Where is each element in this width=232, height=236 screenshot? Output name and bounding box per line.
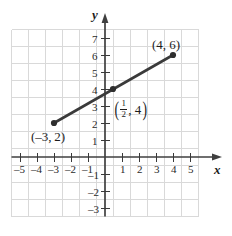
- x-tick-label-neg5: –5: [14, 164, 25, 175]
- y-tick-label-7: 7: [92, 34, 98, 45]
- x-tick-label-4: 4: [171, 164, 177, 175]
- point-marker-left: [51, 120, 57, 126]
- x-tick-label-neg4: –4: [31, 164, 42, 175]
- midpoint-open-paren: (: [114, 98, 119, 120]
- x-tick-label-2: 2: [137, 164, 143, 175]
- point-label-upper: (4, 6): [152, 38, 180, 51]
- coordinate-plane-figure: y x –5 –4 –3 –2 –1 1 2 3 4 5 7 6 5 4 3 2…: [0, 0, 232, 236]
- y-tick-label-neg1: –1: [88, 170, 99, 181]
- x-tick-label-3: 3: [154, 164, 160, 175]
- point-label-lower: (–3, 2): [31, 130, 65, 143]
- point-marker-right: [170, 52, 176, 58]
- x-tick-label-5: 5: [188, 164, 194, 175]
- midpoint-close-paren: ): [143, 98, 148, 120]
- point-label-midpoint: ( 1 2 , 4 ): [113, 98, 149, 120]
- y-tick-label-3: 3: [92, 102, 98, 113]
- x-tick-label-neg2: –2: [65, 164, 76, 175]
- y-tick-label-1: 1: [92, 136, 98, 147]
- y-tick-label-neg2: –2: [88, 187, 99, 198]
- x-tick-label-1: 1: [120, 164, 126, 175]
- y-tick-label-6: 6: [92, 51, 98, 62]
- y-tick-label-2: 2: [92, 119, 98, 130]
- fraction-denominator: 2: [121, 110, 128, 119]
- y-axis-arrowhead: [102, 13, 109, 23]
- x-axis-arrowhead: [212, 153, 222, 160]
- y-axis-label: y: [92, 8, 98, 21]
- point-marker-midpoint: [110, 86, 116, 92]
- x-tick-label-neg3: –3: [48, 164, 59, 175]
- midpoint-fraction: 1 2: [120, 99, 127, 120]
- x-axis-label: x: [214, 163, 221, 176]
- midpoint-y-value: , 4: [128, 103, 141, 116]
- y-tick-label-neg3: –3: [88, 204, 99, 215]
- y-tick-label-5: 5: [92, 68, 98, 79]
- y-tick-label-4: 4: [92, 85, 98, 96]
- fraction-numerator: 1: [121, 99, 128, 108]
